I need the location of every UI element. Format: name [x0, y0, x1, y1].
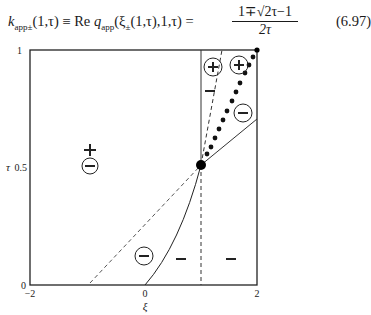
circled-minus-right: [234, 104, 252, 122]
x-tick-2: 2: [255, 288, 260, 299]
x-tick-0: 0: [143, 288, 148, 299]
corner-dot: [254, 47, 259, 52]
circled-plus-upper-right: [230, 56, 248, 74]
plot-frame: [30, 50, 257, 285]
y-axis-label: τ: [6, 161, 11, 173]
large-dot: [196, 160, 206, 170]
x-tick-neg2: −2: [25, 288, 36, 299]
plus-sign-left: [84, 144, 96, 156]
circled-minus-left: [82, 158, 98, 174]
y-tick-1: 1: [17, 45, 22, 56]
region-labels: [82, 56, 252, 265]
solid-diagonal-right: [201, 119, 257, 165]
solid-curve-left: [145, 165, 201, 285]
circled-minus-bottom: [135, 247, 153, 265]
y-tick-0.5: 0.5: [15, 162, 28, 173]
x-axis-label: ξ: [143, 300, 148, 313]
